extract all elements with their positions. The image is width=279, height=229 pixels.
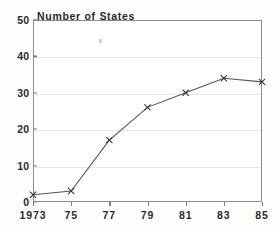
series-layer [0, 0, 279, 229]
series-line [33, 78, 262, 194]
data-point-marker [106, 137, 112, 143]
scan-speck-artifact [99, 39, 102, 43]
line-chart: Number of States 01020304050 19737577798… [0, 0, 279, 229]
data-point-marker [183, 90, 189, 96]
data-point-marker [144, 104, 150, 110]
